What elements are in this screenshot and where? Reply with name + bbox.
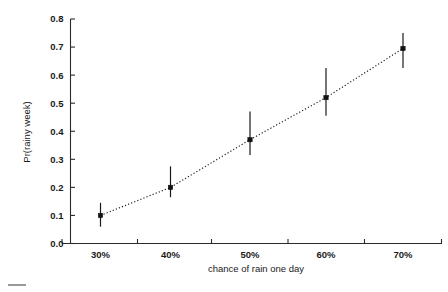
y-tick-label-group: 0.00.10.20.30.40.50.60.70.8 bbox=[50, 13, 64, 249]
y-tick-group bbox=[71, 19, 76, 244]
x-tick-label: 50% bbox=[240, 249, 260, 260]
chart-figure: 0.00.10.20.30.40.50.60.70.8 30%40%50%60%… bbox=[0, 0, 448, 292]
error-bar-group bbox=[101, 33, 404, 227]
y-tick-label: 0.8 bbox=[50, 13, 63, 24]
y-tick-label: 0.6 bbox=[50, 70, 63, 81]
y-axis-title: Pr(rainy week) bbox=[21, 101, 32, 162]
y-tick-label: 0.7 bbox=[50, 41, 63, 52]
y-tick-label: 0.5 bbox=[50, 98, 64, 109]
y-tick-label: 0.3 bbox=[50, 154, 63, 165]
x-tick-group bbox=[62, 239, 442, 244]
series-line-pr-rainy-week bbox=[101, 48, 404, 215]
x-tick-label: 70% bbox=[393, 249, 413, 260]
data-point-group bbox=[98, 46, 405, 217]
data-point-marker bbox=[324, 95, 328, 99]
data-point-marker bbox=[248, 137, 252, 141]
data-point-marker bbox=[401, 46, 405, 50]
data-point-marker bbox=[98, 213, 102, 217]
x-tick-label: 30% bbox=[91, 249, 111, 260]
x-axis-title: chance of rain one day bbox=[208, 263, 304, 274]
x-tick-label-group: 30%40%50%60%70% bbox=[91, 249, 413, 260]
chart-canvas: 0.00.10.20.30.40.50.60.70.8 30%40%50%60%… bbox=[0, 0, 448, 292]
data-point-marker bbox=[168, 185, 172, 189]
x-tick-label: 40% bbox=[161, 249, 181, 260]
y-tick-label: 0.2 bbox=[50, 182, 63, 193]
y-tick-label: 0.4 bbox=[50, 126, 64, 137]
y-tick-label: 0.1 bbox=[50, 210, 64, 221]
axis-group bbox=[62, 19, 442, 244]
x-tick-label: 60% bbox=[316, 249, 336, 260]
